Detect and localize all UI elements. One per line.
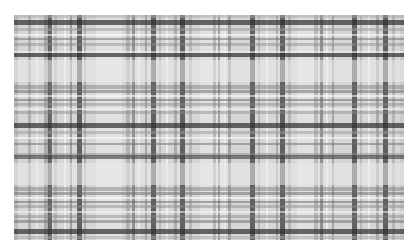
horizontal-stripe xyxy=(14,163,404,185)
horizontal-stripe xyxy=(14,229,404,234)
horizontal-stripe xyxy=(14,60,404,82)
horizontal-stripe xyxy=(14,187,404,191)
horizontal-stripe xyxy=(14,43,404,46)
horizontal-stripe xyxy=(14,215,404,218)
horizontal-stripe xyxy=(14,108,404,110)
horizontal-stripe xyxy=(14,111,404,114)
horizontal-stripe xyxy=(14,53,404,57)
horizontal-stripe xyxy=(14,131,404,134)
horizontal-stripe xyxy=(14,34,404,36)
horizontal-stripe xyxy=(14,103,404,106)
horizontal-stripe xyxy=(14,15,404,18)
horizontal-stripe xyxy=(14,211,404,213)
horizontal-stripe xyxy=(14,236,404,239)
plaid-fabric xyxy=(14,15,404,240)
horizontal-stripe xyxy=(14,99,404,101)
horizontal-stripe xyxy=(14,143,404,145)
horizontal-stripe xyxy=(14,137,404,139)
horizontal-stripe xyxy=(14,220,404,223)
horizontal-stripe xyxy=(14,123,404,128)
horizontal-stripe xyxy=(14,90,404,93)
horizontal-stripe xyxy=(14,155,404,159)
horizontal-stripe xyxy=(14,20,404,25)
horizontal-stripe xyxy=(14,95,404,97)
horizontal-stripe xyxy=(14,205,404,208)
horizontal-stripe xyxy=(14,197,404,199)
horizontal-stripe xyxy=(14,38,404,40)
horizontal-stripe xyxy=(14,201,404,203)
horizontal-stripe xyxy=(14,28,404,31)
horizontal-stripe xyxy=(14,85,404,89)
horizontal-stripe xyxy=(14,192,404,195)
